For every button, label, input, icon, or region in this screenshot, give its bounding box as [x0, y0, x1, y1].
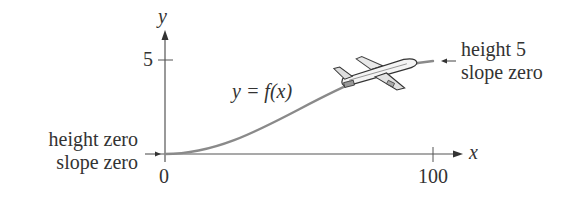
start-annotation-line2: slope zero [56, 152, 138, 173]
x-axis-arrow-icon [453, 151, 463, 158]
y-axis-label: y [158, 6, 167, 27]
x-tick-label-0: 0 [159, 166, 169, 187]
curve-label: y = f(x) [232, 81, 292, 102]
x-axis-label: x [469, 142, 478, 163]
airplane-icon [333, 44, 422, 104]
end-annotation-line2: slope zero [461, 62, 543, 83]
y-axis-arrow-icon [162, 30, 169, 40]
y-tick-label-5: 5 [143, 49, 153, 70]
end-annotation-line1: height 5 [461, 39, 526, 60]
curve-f [165, 61, 433, 154]
x-tick-label-100: 100 [418, 166, 448, 187]
start-pointer-arrow-icon [155, 152, 161, 157]
start-annotation-line1: height zero [49, 129, 138, 150]
end-pointer-arrow-icon [441, 59, 447, 64]
